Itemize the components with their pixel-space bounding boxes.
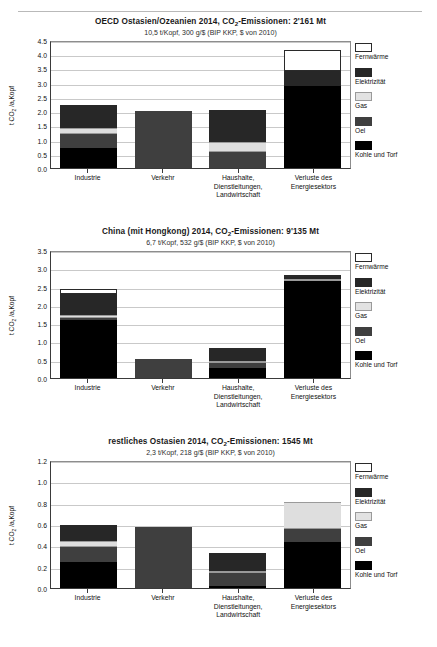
chart-title-text: restliches Ostasien 2014, CO: [108, 437, 223, 446]
x-tick: [162, 589, 163, 593]
y-axis-label: t CO2 /a,Kopf: [6, 251, 18, 379]
chart-title-text: China (mit Hongkong) 2014, CO: [102, 227, 228, 236]
legend-swatch-oel: [355, 537, 372, 546]
y-tick-label: 3.0: [38, 80, 47, 87]
legend-item-gas: Gas: [355, 92, 435, 110]
bar-segment-elektrizitaet: [209, 553, 266, 571]
legend-swatch-oel: [355, 327, 372, 336]
legend-item-fernwaerme: Fernwärme: [355, 463, 435, 481]
y-tick-label: 0.5: [38, 357, 47, 364]
y-tick-label: 3.5: [38, 66, 47, 73]
legend-label-oel: Oel: [355, 337, 435, 345]
legend: FernwärmeElektrizitätGasOelKohle und Tor…: [355, 253, 435, 376]
legend-item-gas: Gas: [355, 302, 435, 320]
y-axis-label: t CO2 /a,Kopf: [6, 41, 18, 169]
y-axis-label-text: t CO2 /a,Kopf: [9, 505, 16, 544]
y-tick-label: 2.0: [38, 109, 47, 116]
y-axis-ticks: 0.00.20.40.60.81.01.2: [18, 461, 50, 589]
x-label-line: Haushalte,: [204, 384, 273, 393]
x-axis-labels: IndustrieVerkehrHaushalte,Dienstleitunge…: [50, 594, 351, 620]
x-tick: [162, 379, 163, 383]
chart-title-text-suffix: -Emissionen: 1545 Mt: [227, 437, 313, 446]
bar-segment-kohle: [209, 586, 266, 588]
bar-segment-gas: [284, 502, 341, 530]
bar-segment-kohle: [284, 281, 341, 378]
chart-title: restliches Ostasien 2014, CO2-Emissionen…: [0, 436, 437, 447]
y-tick-label: 0.6: [38, 522, 47, 529]
legend-label-fernwaerme: Fernwärme: [355, 263, 435, 271]
x-label-line: Landwirtschaft: [204, 401, 273, 410]
x-tick: [238, 589, 239, 593]
x-label-line: Dienstleitungen,: [204, 603, 273, 612]
bar-stack: [60, 42, 117, 168]
x-tick: [162, 169, 163, 173]
bar-segment-kohle: [209, 368, 266, 378]
x-label-line: Industrie: [53, 384, 122, 393]
legend-label-elektrizitaet: Elektrizität: [355, 288, 435, 296]
y-tick-label: 2.5: [38, 94, 47, 101]
bar-segment-kohle: [60, 320, 117, 378]
x-axis-label-1: Industrie: [53, 174, 122, 200]
legend-swatch-gas: [355, 92, 372, 101]
legend-swatch-oel: [355, 117, 372, 126]
bar-stack: [135, 462, 192, 588]
plot-area: t CO2 /a,Kopf0.00.20.40.60.81.01.2Indust…: [0, 461, 437, 616]
legend-swatch-fernwaerme: [355, 253, 372, 262]
legend-swatch-gas: [355, 302, 372, 311]
x-label-line: Industrie: [53, 174, 122, 183]
y-tick-label: 1.5: [38, 123, 47, 130]
legend-label-kohle: Kohle und Torf: [355, 151, 435, 159]
legend-label-elektrizitaet: Elektrizität: [355, 498, 435, 506]
bar-stack: [284, 42, 341, 168]
y-tick-label: 0.5: [38, 151, 47, 158]
chart-title-text-suffix: -Emissionen: 9'135 Mt: [231, 227, 319, 236]
y-tick-label: 3.5: [38, 248, 47, 255]
page-header-ghost: [0, 0, 437, 8]
legend-swatch-fernwaerme: [355, 463, 372, 472]
legend-item-elektrizitaet: Elektrizität: [355, 488, 435, 506]
y-axis-label: t CO2 /a,Kopf: [6, 461, 18, 589]
x-axis-labels: IndustrieVerkehrHaushalte,Dienstleitunge…: [50, 174, 351, 200]
legend-item-elektrizitaet: Elektrizität: [355, 68, 435, 86]
y-tick-label: 0.8: [38, 500, 47, 507]
x-label-line: Verluste des Energiesektors: [279, 384, 348, 401]
bar-segment-kohle: [60, 148, 117, 168]
bar-segment-elektrizitaet: [284, 71, 341, 86]
bar-segment-elektrizitaet: [209, 350, 266, 361]
legend-label-kohle: Kohle und Torf: [355, 571, 435, 579]
bar-segment-elektrizitaet: [60, 294, 117, 315]
legend-swatch-elektrizitaet: [355, 488, 372, 497]
plot-box: [50, 41, 351, 169]
bar-stack: [209, 462, 266, 588]
chart-title-text: OECD Ostasien/Ozeanien 2014, CO: [95, 17, 235, 26]
bar-stack: [60, 252, 117, 378]
legend-item-kohle: Kohle und Torf: [355, 351, 435, 369]
x-axis-ticks: [50, 169, 351, 173]
x-axis-label-4: Verluste des Energiesektors: [279, 384, 348, 410]
bar-stack: [135, 42, 192, 168]
chart-title-text-suffix: -Emissionen: 2'161 Mt: [238, 17, 326, 26]
legend-item-kohle: Kohle und Torf: [355, 561, 435, 579]
legend-item-oel: Oel: [355, 327, 435, 345]
x-axis-labels: IndustrieVerkehrHaushalte,Dienstleitunge…: [50, 384, 351, 410]
bar-segment-elektrizitaet: [60, 525, 117, 541]
bar-stack: [60, 462, 117, 588]
y-axis-ticks: 0.00.51.01.52.02.53.03.5: [18, 251, 50, 379]
y-tick-label: 0.4: [38, 543, 47, 550]
bar-stack: [135, 252, 192, 378]
plot-area: t CO2 /a,Kopf0.00.51.01.52.02.53.03.54.0…: [0, 41, 437, 196]
y-tick-label: 1.0: [38, 339, 47, 346]
x-axis-label-3: Haushalte,Dienstleitungen,Landwirtschaft: [204, 174, 273, 200]
bar-stack: [284, 252, 341, 378]
x-label-line: Haushalte,: [204, 594, 273, 603]
bar-segment-oel: [135, 111, 192, 168]
bar-segment-oel: [60, 134, 117, 148]
x-label-line: Verkehr: [128, 594, 197, 603]
legend-item-gas: Gas: [355, 512, 435, 530]
legend-label-gas: Gas: [355, 312, 435, 320]
bar-segment-oel: [209, 152, 266, 168]
legend-label-oel: Oel: [355, 127, 435, 135]
legend-label-oel: Oel: [355, 547, 435, 555]
bar-segment-elektrizitaet: [60, 105, 117, 128]
x-axis-label-1: Industrie: [53, 384, 122, 410]
